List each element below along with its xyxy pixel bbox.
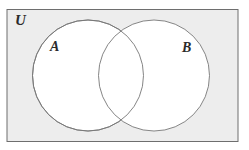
set-b-label: B — [182, 41, 191, 55]
set-a-label: A — [50, 40, 59, 54]
venn-diagram-canvas — [0, 0, 249, 150]
set-b-circle — [99, 20, 210, 131]
universe-label: U — [15, 13, 26, 28]
venn-diagram-figure: U A B — [0, 0, 249, 150]
